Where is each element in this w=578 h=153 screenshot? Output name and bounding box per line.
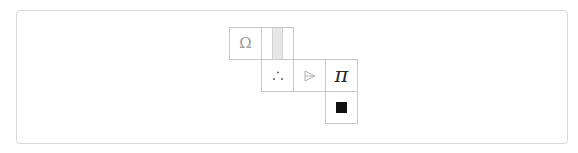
stripe-icon bbox=[272, 28, 283, 59]
omega-icon: Ω bbox=[239, 36, 251, 51]
cell-stripe[interactable] bbox=[261, 27, 294, 60]
cell-arrow[interactable] bbox=[293, 59, 326, 92]
black-square-icon bbox=[336, 102, 347, 113]
cell-pi[interactable]: π bbox=[325, 59, 358, 92]
cell-black-square[interactable] bbox=[325, 91, 358, 124]
arrow-triangle-icon bbox=[303, 70, 317, 82]
pi-icon: π bbox=[335, 65, 349, 86]
cell-omega[interactable]: Ω bbox=[229, 27, 262, 60]
therefore-dots-icon bbox=[271, 70, 285, 82]
cell-therefore[interactable] bbox=[261, 59, 294, 92]
